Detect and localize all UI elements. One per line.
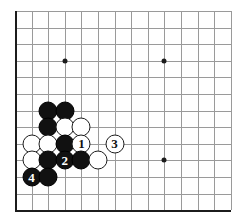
move-number-label: 3 — [111, 137, 118, 150]
board-stones: 1324 — [0, 0, 236, 221]
go-board-diagram: 1324 — [0, 0, 236, 221]
move-number-label: 2 — [62, 153, 69, 166]
stone-white[interactable] — [89, 151, 108, 170]
stone-black[interactable] — [39, 168, 58, 187]
move-number-label: 1 — [78, 137, 85, 150]
move-stone-3-white[interactable]: 3 — [105, 134, 124, 153]
move-number-label: 4 — [28, 170, 35, 183]
